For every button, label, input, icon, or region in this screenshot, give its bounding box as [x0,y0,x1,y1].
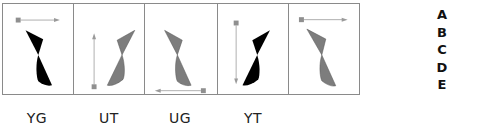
panel-3-figure [145,4,217,94]
arrow-right-icon [299,17,348,22]
panel-2 [74,4,146,94]
option-a: A [437,6,447,24]
arrow-right-icon [16,18,60,23]
bowtie-shape-gray [307,29,336,86]
answer-options: A B C D E [434,6,450,94]
arrow-up-icon [91,33,96,89]
option-e: E [438,76,447,94]
option-d: D [437,59,448,77]
figure-strip [2,3,360,95]
panel-1 [3,4,74,94]
panel-5-figure [289,4,359,94]
bowtie-shape-black [242,30,269,85]
code-label-2: UT [73,110,145,125]
arrow-left-icon [155,88,206,93]
panel-2-figure [74,4,145,94]
bowtie-shape-gray [107,30,134,85]
arrow-down-icon [233,21,238,85]
panel-4 [218,4,290,94]
panel-5 [289,4,359,94]
code-label-3: UG [144,110,216,125]
option-b: B [437,24,447,42]
code-label-4: YT [217,110,289,125]
code-label-1: YG [1,110,73,125]
panel-3 [145,4,218,94]
bowtie-shape-black [26,30,52,85]
panel-1-figure [3,4,73,94]
option-c: C [437,41,447,59]
bowtie-shape-gray [165,30,191,85]
panel-4-figure [218,4,289,94]
